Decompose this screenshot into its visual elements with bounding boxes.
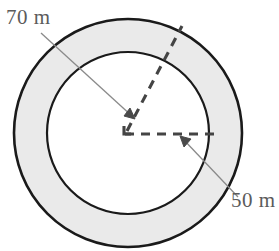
annulus-drawing — [0, 0, 279, 251]
annulus-figure: 70 m 50 m — [0, 0, 279, 251]
inner-radius-label: 50 m — [231, 190, 276, 211]
outer-radius-label: 70 m — [6, 7, 51, 28]
